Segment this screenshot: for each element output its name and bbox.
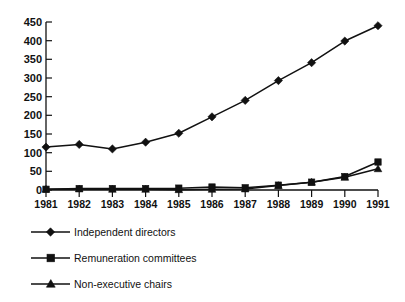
diamond-marker-icon [142, 138, 150, 146]
square-marker-icon [47, 254, 55, 262]
y-tick-label: 50 [30, 165, 42, 177]
y-axis-tick-labels: 450 400 350 300 250 200 150 100 50 0 [24, 16, 42, 196]
y-tick-label: 450 [24, 16, 42, 28]
y-tick-label: 150 [24, 128, 42, 140]
x-tick-label: 1991 [366, 198, 390, 210]
x-tick-label: 1989 [300, 198, 324, 210]
series-line [46, 26, 378, 149]
diamond-marker-icon [75, 140, 83, 148]
x-tick-label: 1985 [167, 198, 191, 210]
diamond-marker-icon [308, 59, 316, 67]
chart-figure: 450 400 350 300 250 200 150 100 50 0 [0, 0, 405, 302]
legend-item-remuneration-committees[interactable]: Remuneration committees [31, 252, 197, 264]
x-tick-label: 1984 [134, 198, 158, 210]
y-tick-label: 350 [24, 53, 42, 65]
legend-item-label: Non-executive chairs [74, 278, 172, 290]
y-tick-label: 300 [24, 72, 42, 84]
triangle-marker-icon [374, 165, 382, 172]
square-marker-icon [375, 159, 381, 165]
series-non-executive-chairs [42, 165, 382, 193]
x-tick-label: 1982 [68, 198, 92, 210]
plot-series-layer [42, 22, 382, 193]
diamond-marker-icon [341, 37, 349, 45]
diamond-marker-icon [108, 145, 116, 153]
legend-item-label: Remuneration committees [74, 252, 197, 264]
diamond-marker-icon [46, 228, 54, 236]
x-tick-label: 1990 [333, 198, 357, 210]
y-axis-ticks [46, 22, 52, 190]
series-independent-directors [42, 22, 382, 153]
x-tick-label: 1983 [101, 198, 125, 210]
diamond-marker-icon [274, 77, 282, 85]
x-tick-label: 1987 [234, 198, 258, 210]
x-tick-label: 1988 [267, 198, 291, 210]
diamond-marker-icon [374, 22, 382, 30]
x-tick-label: 1981 [34, 198, 58, 210]
legend-item-independent-directors[interactable]: Independent directors [31, 226, 176, 238]
x-tick-label: 1986 [200, 198, 224, 210]
legend-item-non-executive-chairs[interactable]: Non-executive chairs [31, 278, 172, 290]
line-chart: 450 400 350 300 250 200 150 100 50 0 [0, 0, 405, 302]
diamond-marker-icon [208, 113, 216, 121]
chart-legend: Independent directors Remuneration commi… [31, 226, 197, 290]
diamond-marker-icon [241, 96, 249, 104]
y-tick-label: 250 [24, 91, 42, 103]
legend-item-label: Independent directors [74, 226, 176, 238]
y-tick-label: 200 [24, 109, 42, 121]
y-tick-label: 100 [24, 147, 42, 159]
diamond-marker-icon [175, 129, 183, 137]
x-axis-tick-labels: 1981 1982 1983 1984 1985 1986 1987 1988 … [34, 198, 390, 210]
y-tick-label: 400 [24, 35, 42, 47]
y-tick-label: 0 [36, 184, 42, 196]
diamond-marker-icon [42, 143, 50, 151]
